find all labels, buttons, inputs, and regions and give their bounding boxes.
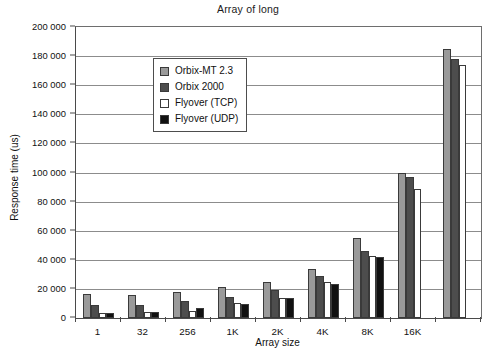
y-axis-tick-label: 120 000 bbox=[32, 137, 66, 148]
bar bbox=[286, 298, 294, 318]
y-axis-tick-label: 60 000 bbox=[37, 224, 66, 235]
legend-item-label: Flyover (TCP) bbox=[175, 98, 237, 108]
x-axis-tick-label: 256 bbox=[179, 326, 195, 337]
legend-item-label: Orbix 2000 bbox=[175, 82, 224, 92]
x-axis-tick-label: 1K bbox=[227, 326, 239, 337]
legend-item: Orbix-MT 2.3 bbox=[160, 63, 238, 79]
bar bbox=[353, 238, 361, 318]
bar bbox=[83, 294, 91, 318]
bar bbox=[406, 177, 414, 318]
legend-item: Flyover (TCP) bbox=[160, 95, 238, 111]
plot-area: Orbix-MT 2.3Orbix 2000Flyover (TCP)Flyov… bbox=[75, 26, 482, 319]
bar bbox=[279, 298, 287, 318]
y-axis-tick-label: 200 000 bbox=[32, 21, 66, 32]
bar bbox=[451, 59, 459, 318]
bar bbox=[308, 269, 316, 318]
legend-item: Flyover (UDP) bbox=[160, 111, 238, 127]
bar bbox=[376, 257, 384, 318]
legend-swatch-icon bbox=[160, 67, 169, 76]
legend-item: Orbix 2000 bbox=[160, 79, 238, 95]
x-axis-tick-label: 16K bbox=[404, 326, 421, 337]
legend-swatch-icon bbox=[160, 83, 169, 92]
y-axis-tick-label: 100 000 bbox=[32, 166, 66, 177]
x-axis-tick-mark bbox=[480, 317, 481, 322]
y-axis-tick-label: 180 000 bbox=[32, 50, 66, 61]
y-axis-label: Response time (us) bbox=[9, 78, 20, 278]
bar bbox=[234, 303, 242, 318]
bar bbox=[398, 173, 406, 319]
bar-series-container bbox=[76, 27, 481, 318]
x-axis-tick-mark bbox=[210, 317, 211, 322]
bar bbox=[128, 295, 136, 318]
x-axis-tick-mark bbox=[345, 317, 346, 322]
y-axis-tick-label: 40 000 bbox=[37, 253, 66, 264]
bar bbox=[271, 290, 279, 318]
bar bbox=[331, 284, 339, 318]
y-axis-tick-label: 0 bbox=[61, 312, 66, 323]
bar bbox=[316, 276, 324, 318]
x-axis-tick-mark bbox=[120, 317, 121, 322]
x-axis-tick-label: 4K bbox=[317, 326, 329, 337]
bar bbox=[414, 189, 422, 318]
x-axis-tick-mark bbox=[435, 317, 436, 322]
bar bbox=[369, 256, 377, 318]
y-axis-tick-label: 140 000 bbox=[32, 108, 66, 119]
legend-item-label: Flyover (UDP) bbox=[175, 114, 238, 124]
bar bbox=[263, 282, 271, 318]
bar bbox=[241, 304, 249, 318]
chart-legend: Orbix-MT 2.3Orbix 2000Flyover (TCP)Flyov… bbox=[153, 58, 247, 132]
x-axis-tick-label: 1 bbox=[95, 326, 100, 337]
bar bbox=[443, 49, 451, 318]
x-axis-tick-mark bbox=[390, 317, 391, 322]
x-axis-tick-label: 2K bbox=[272, 326, 284, 337]
x-axis-tick-label: 8K bbox=[362, 326, 374, 337]
x-axis-tick-mark bbox=[300, 317, 301, 322]
legend-item-label: Orbix-MT 2.3 bbox=[175, 66, 233, 76]
y-axis-tick-label: 80 000 bbox=[37, 195, 66, 206]
bar bbox=[361, 251, 369, 318]
bar bbox=[173, 292, 181, 318]
x-axis-tick-mark bbox=[255, 317, 256, 322]
chart-figure: Array of long 020 00040 00060 00080 0001… bbox=[0, 0, 496, 362]
bar bbox=[181, 301, 189, 318]
bar bbox=[218, 287, 226, 318]
x-axis-tick-mark bbox=[165, 317, 166, 322]
bar bbox=[324, 282, 332, 318]
y-axis-tick-label: 20 000 bbox=[37, 282, 66, 293]
bar bbox=[226, 297, 234, 318]
legend-swatch-icon bbox=[160, 115, 169, 124]
y-axis-tick-label: 160 000 bbox=[32, 79, 66, 90]
x-axis-tick-mark bbox=[75, 317, 76, 322]
x-axis-label: Array size bbox=[75, 337, 480, 348]
x-axis-tick-label: 32 bbox=[137, 326, 148, 337]
legend-swatch-icon bbox=[160, 99, 169, 108]
bar bbox=[459, 65, 467, 318]
